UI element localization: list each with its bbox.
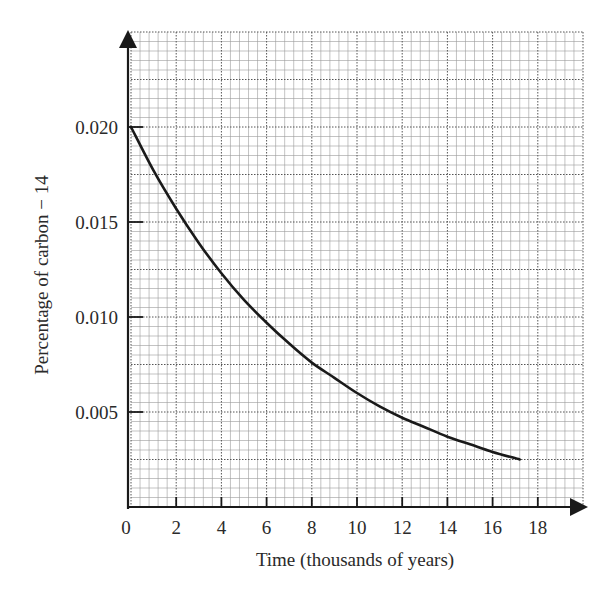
decay-curve xyxy=(131,127,520,460)
x-axis-arrow-icon xyxy=(570,498,588,516)
grid-major xyxy=(131,32,583,507)
y-tick-labels: 0.0050.0100.0150.020 xyxy=(75,117,118,423)
x-tick-label: 14 xyxy=(438,517,458,538)
x-tick-label: 16 xyxy=(483,517,502,538)
y-tick-label: 0.010 xyxy=(75,307,118,328)
x-tick-label: 6 xyxy=(262,517,272,538)
x-tick-label: 18 xyxy=(528,517,547,538)
x-tick-label: 0 xyxy=(121,517,131,538)
y-tick-label: 0.020 xyxy=(75,117,118,138)
y-tick-label: 0.015 xyxy=(75,212,118,233)
y-tick-label: 0.005 xyxy=(75,402,118,423)
x-tick-label: 4 xyxy=(217,517,227,538)
x-tick-label: 8 xyxy=(307,517,317,538)
x-axis-title: Time (thousands of years) xyxy=(256,549,454,571)
chart: 024681012141618 0.0050.0100.0150.020 Tim… xyxy=(0,0,609,610)
y-axis-arrow-icon xyxy=(119,30,137,48)
x-tick-label: 12 xyxy=(393,517,412,538)
x-tick-label: 2 xyxy=(171,517,181,538)
x-tick-label: 10 xyxy=(348,517,367,538)
x-tick-labels: 024681012141618 xyxy=(121,517,547,538)
y-axis-title: Percentage of carbon − 14 xyxy=(31,175,52,375)
axes xyxy=(128,40,575,509)
